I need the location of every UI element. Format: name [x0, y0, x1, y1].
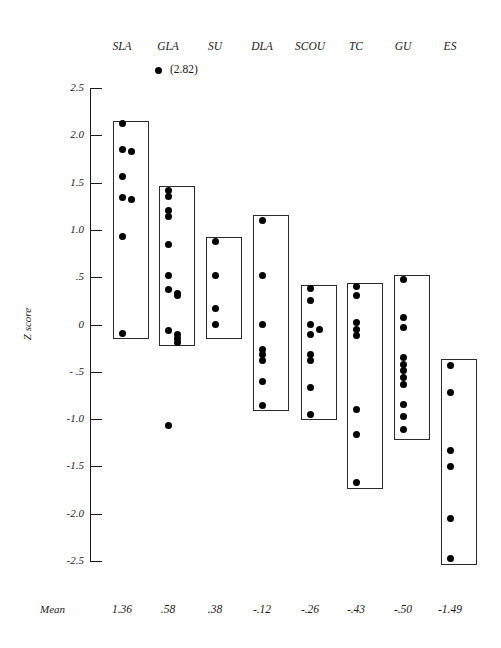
- data-point: [119, 194, 126, 201]
- y-axis-tick: [91, 135, 102, 136]
- range-box-es: [441, 359, 477, 565]
- data-point: [307, 357, 314, 364]
- y-axis-tick-label: - .5: [28, 366, 84, 377]
- y-axis-tick-label: -1.5: [28, 460, 84, 471]
- data-point: [353, 332, 360, 339]
- data-point: [447, 389, 454, 396]
- y-axis-tick-label: .5: [28, 271, 84, 282]
- data-point: [400, 401, 407, 408]
- data-point: [400, 314, 407, 321]
- data-point: [174, 339, 181, 346]
- data-point: [165, 193, 172, 200]
- data-point: [165, 241, 172, 248]
- data-point: [353, 292, 360, 299]
- data-point: [400, 374, 407, 381]
- y-axis-tick-label: -2.0: [28, 508, 84, 519]
- y-axis-tick: [91, 372, 102, 373]
- data-point: [400, 276, 407, 283]
- data-point: [259, 402, 266, 409]
- data-point: [447, 362, 454, 369]
- data-point: [307, 331, 314, 338]
- data-point: [212, 272, 219, 279]
- data-point: [174, 292, 181, 299]
- data-point: [119, 173, 126, 180]
- data-point: [400, 426, 407, 433]
- data-point: [447, 447, 454, 454]
- outlier-point: [155, 67, 162, 74]
- mean-row-label: Mean: [40, 604, 65, 615]
- data-point: [165, 272, 172, 279]
- y-axis-tick-label: 1.0: [28, 224, 84, 235]
- data-point: [259, 217, 266, 224]
- y-axis-tick: [91, 561, 102, 562]
- data-point: [307, 321, 314, 328]
- data-point: [212, 305, 219, 312]
- y-axis-tick-label: -2.5: [28, 555, 84, 566]
- scatter-chart: Z score 2.52.01.51.0.50- .5-1.0-1.5-2.0-…: [0, 0, 501, 648]
- data-point: [316, 326, 323, 333]
- data-point: [165, 327, 172, 334]
- mean-value-es: -1.49: [420, 604, 480, 616]
- data-point: [165, 422, 172, 429]
- y-axis-tick-label: -1.0: [28, 413, 84, 424]
- data-point: [119, 146, 126, 153]
- y-axis-tick: [91, 88, 102, 89]
- range-box-tc: [347, 283, 383, 489]
- data-point: [307, 285, 314, 292]
- y-axis-tick: [91, 325, 102, 326]
- data-point: [307, 384, 314, 391]
- y-axis-tick-label: 0: [28, 319, 84, 330]
- column-header-es: ES: [420, 41, 480, 53]
- data-point: [128, 196, 135, 203]
- data-point: [212, 238, 219, 245]
- data-point: [119, 120, 126, 127]
- data-point: [447, 463, 454, 470]
- data-point: [259, 272, 266, 279]
- data-point: [259, 357, 266, 364]
- data-point: [165, 213, 172, 220]
- y-axis-tick: [91, 277, 102, 278]
- data-point: [307, 411, 314, 418]
- y-axis-tick: [91, 183, 102, 184]
- y-axis-tick-label: 1.5: [28, 177, 84, 188]
- data-point: [447, 555, 454, 562]
- data-point: [353, 406, 360, 413]
- data-point: [165, 286, 172, 293]
- outlier-label: (2.82): [170, 64, 198, 76]
- data-point: [259, 321, 266, 328]
- data-point: [259, 378, 266, 385]
- data-point: [400, 413, 407, 420]
- y-axis-tick-label: 2.0: [28, 129, 84, 140]
- y-axis-tick: [91, 230, 102, 231]
- data-point: [353, 283, 360, 290]
- data-point: [353, 431, 360, 438]
- data-point: [119, 233, 126, 240]
- data-point: [119, 330, 126, 337]
- data-point: [400, 324, 407, 331]
- y-axis-tick: [91, 466, 102, 467]
- y-axis-tick-label: 2.5: [28, 82, 84, 93]
- data-point: [212, 321, 219, 328]
- y-axis-tick: [91, 514, 102, 515]
- data-point: [307, 297, 314, 304]
- data-point: [447, 515, 454, 522]
- data-point: [353, 479, 360, 486]
- data-point: [128, 148, 135, 155]
- y-axis-tick: [91, 419, 102, 420]
- data-point: [400, 381, 407, 388]
